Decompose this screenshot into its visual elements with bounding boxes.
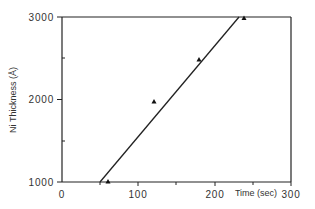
x-tick-0: 0: [59, 189, 65, 200]
plot-frame: [62, 17, 291, 182]
fit-line: [100, 17, 239, 182]
x-tick-100: 100: [128, 189, 147, 200]
y-tick-1000: 1000: [29, 177, 54, 188]
data-markers: [106, 16, 247, 184]
chart: 3000 2000 1000 0 100 200 300 Time (sec) …: [0, 0, 315, 209]
triangle-marker-icon: [242, 16, 247, 21]
y-tick-3000: 3000: [29, 12, 54, 23]
triangle-marker-icon: [197, 57, 202, 62]
x-tick-300: 300: [281, 189, 300, 200]
y-tick-2000: 2000: [29, 94, 54, 105]
x-ticks: [100, 182, 291, 186]
triangle-marker-icon: [106, 179, 111, 184]
y-axis-label: Ni Thickness (Å): [8, 67, 18, 133]
y-ticks: [57, 17, 65, 182]
triangle-marker-icon: [152, 99, 157, 104]
x-tick-200: 200: [205, 189, 224, 200]
x-axis-label: Time (sec): [235, 188, 277, 198]
